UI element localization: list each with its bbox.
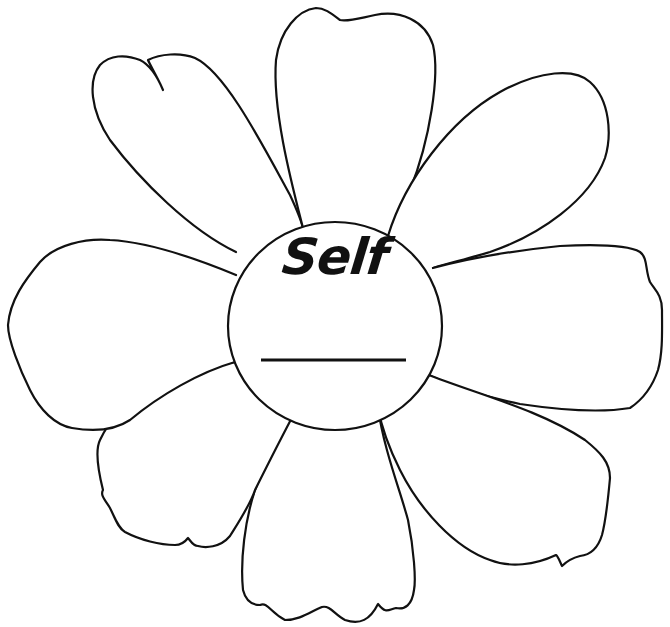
petal-right[interactable] bbox=[426, 245, 662, 410]
flower-diagram bbox=[0, 0, 670, 627]
center-title: Self bbox=[237, 228, 433, 286]
center-blank-input[interactable] bbox=[260, 345, 412, 369]
petal-upper-left[interactable] bbox=[93, 54, 303, 252]
